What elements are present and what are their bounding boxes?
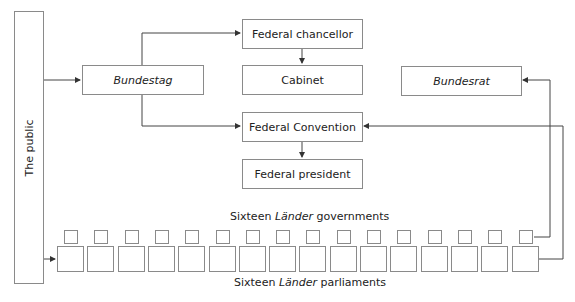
land-government-box — [276, 230, 290, 244]
governments-label: Sixteen Länder governments — [230, 210, 389, 223]
land-government-box — [306, 230, 320, 244]
bundesrat-box: Bundesrat — [401, 66, 522, 96]
land-government-box — [337, 230, 351, 244]
land-parliament-box — [512, 246, 539, 272]
chancellor-box: Federal chancellor — [242, 19, 363, 49]
governments-label-italic: Länder — [275, 210, 313, 223]
land-parliament-box — [87, 246, 114, 272]
land-parliament-box — [209, 246, 236, 272]
land-parliament-box — [269, 246, 296, 272]
bundesrat-label: Bundesrat — [433, 75, 490, 88]
cabinet-label: Cabinet — [281, 74, 324, 87]
land-government-box — [185, 230, 199, 244]
land-parliament-box — [481, 246, 508, 272]
land-government-box — [216, 230, 230, 244]
parliaments-label: Sixteen Länder parliaments — [234, 276, 386, 289]
land-parliament-box — [330, 246, 357, 272]
land-government-box — [155, 230, 169, 244]
land-parliament-box — [148, 246, 175, 272]
chancellor-label: Federal chancellor — [252, 28, 353, 41]
land-government-box — [458, 230, 472, 244]
land-parliament-box — [451, 246, 478, 272]
land-parliament-box — [118, 246, 145, 272]
president-label: Federal president — [255, 168, 351, 181]
governments-label-suffix: governments — [313, 210, 389, 223]
land-government-box — [519, 230, 533, 244]
land-parliament-box — [178, 246, 205, 272]
land-parliament-box — [239, 246, 266, 272]
parliaments-label-suffix: parliaments — [317, 276, 386, 289]
cabinet-box: Cabinet — [242, 65, 363, 95]
parliaments-label-italic: Länder — [279, 276, 317, 289]
president-box: Federal president — [242, 159, 363, 189]
bundestag-box: Bundestag — [82, 65, 204, 95]
land-government-box — [94, 230, 108, 244]
bundestag-label: Bundestag — [113, 74, 172, 87]
land-parliament-box — [299, 246, 326, 272]
public-label: The public — [23, 119, 36, 176]
convention-label: Federal Convention — [249, 121, 356, 134]
land-government-box — [64, 230, 78, 244]
public-box: The public — [14, 11, 44, 284]
land-parliament-box — [421, 246, 448, 272]
land-parliament-box — [360, 246, 387, 272]
land-government-box — [125, 230, 139, 244]
parliaments-label-prefix: Sixteen — [234, 276, 279, 289]
land-government-box — [246, 230, 260, 244]
land-government-box — [397, 230, 411, 244]
land-government-box — [367, 230, 381, 244]
land-parliament-box — [57, 246, 84, 272]
convention-box: Federal Convention — [242, 112, 363, 142]
land-government-box — [428, 230, 442, 244]
governments-label-prefix: Sixteen — [230, 210, 275, 223]
land-parliament-box — [390, 246, 417, 272]
land-government-box — [488, 230, 502, 244]
